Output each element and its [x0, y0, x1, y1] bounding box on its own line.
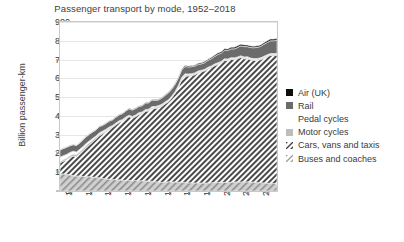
x-tick-mark: [188, 192, 189, 195]
legend-swatch-icon: [286, 102, 293, 109]
legend-swatch-icon: [286, 115, 293, 122]
legend-label: Pedal cycles: [298, 114, 349, 124]
stacked-area-series: [60, 22, 277, 191]
x-tick-mark: [149, 192, 150, 195]
legend-item[interactable]: Motor cycles: [286, 126, 404, 139]
area-band: [60, 55, 277, 184]
y-axis-label: Billion passenger-km: [17, 25, 27, 185]
legend-swatch-icon: [286, 155, 293, 162]
legend-item[interactable]: Buses and coaches: [286, 152, 404, 165]
legend-item[interactable]: Pedal cycles: [286, 112, 404, 125]
legend-swatch-icon: [286, 129, 293, 136]
legend-label: Motor cycles: [298, 127, 349, 137]
legend-label: Rail: [298, 101, 314, 111]
chart-root: Passenger transport by mode, 1952–2018 B…: [0, 0, 404, 242]
legend-item[interactable]: Rail: [286, 99, 404, 112]
x-tick-mark: [247, 192, 248, 195]
x-tick-mark: [90, 192, 91, 195]
legend-swatch-icon: [286, 142, 293, 149]
legend-swatch-icon: [286, 89, 293, 96]
legend-label: Air (UK): [298, 88, 330, 98]
legend-label: Buses and coaches: [298, 154, 377, 164]
x-tick-mark: [70, 192, 71, 195]
x-tick-mark: [208, 192, 209, 195]
legend-label: Cars, vans and taxis: [298, 140, 380, 150]
legend-item[interactable]: Cars, vans and taxis: [286, 139, 404, 152]
chart-legend: Air (UK)RailPedal cyclesMotor cyclesCars…: [286, 86, 404, 165]
x-tick-mark: [228, 192, 229, 195]
x-tick-mark: [267, 192, 268, 195]
x-tick-mark: [169, 192, 170, 195]
chart-title: Passenger transport by mode, 1952–2018: [0, 3, 290, 14]
x-tick-mark: [109, 192, 110, 195]
plot-area: [59, 21, 278, 192]
x-tick-mark: [129, 192, 130, 195]
legend-item[interactable]: Air (UK): [286, 86, 404, 99]
